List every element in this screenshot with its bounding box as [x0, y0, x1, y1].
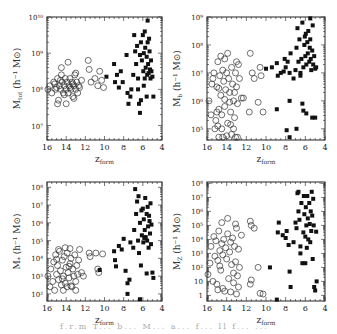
data-point-filled-square [145, 95, 149, 99]
data-point-filled-square [308, 37, 312, 41]
data-point-filled-square [143, 196, 147, 200]
data-point-filled-square [292, 77, 296, 81]
data-point-filled-square [126, 102, 130, 106]
data-point-open-circle [220, 134, 226, 140]
data-point-open-circle [79, 270, 85, 276]
data-point-filled-square [149, 58, 153, 62]
data-point-filled-square [149, 223, 153, 227]
data-point-filled-square [134, 212, 138, 216]
data-point-open-circle [231, 126, 237, 132]
data-point-filled-square [142, 84, 146, 88]
data-point-open-circle [260, 109, 266, 115]
data-point-filled-square [142, 217, 146, 221]
data-point-open-circle [233, 221, 239, 227]
data-point-filled-square [126, 281, 130, 285]
data-point-filled-square [135, 200, 139, 204]
data-point-open-circle [247, 50, 253, 56]
data-point-filled-square [309, 68, 313, 72]
data-point-filled-square [113, 80, 117, 84]
data-point-open-circle [208, 112, 214, 118]
data-point-filled-square [294, 68, 298, 72]
data-point-open-circle [97, 68, 103, 74]
data-point-filled-square [302, 194, 306, 198]
data-point-filled-square [313, 116, 317, 120]
data-point-filled-square [139, 98, 143, 102]
data-point-open-circle [86, 66, 92, 72]
data-point-open-circle [208, 243, 214, 249]
data-point-filled-square [141, 69, 145, 73]
y-tick-label: 10⁸ [191, 180, 203, 188]
data-point-filled-square [132, 228, 136, 232]
x-tick-label: 16 [42, 304, 52, 313]
data-point-open-circle [234, 291, 240, 297]
data-point-open-circle [217, 248, 223, 254]
data-point-open-circle [205, 271, 211, 277]
data-point-filled-square [289, 285, 293, 289]
data-point-filled-square [314, 65, 318, 69]
data-point-filled-square [294, 46, 298, 50]
y-tick-label: 10⁸ [31, 86, 43, 94]
data-point-open-circle [228, 289, 234, 295]
data-point-filled-square [131, 73, 135, 77]
data-point-filled-square [136, 239, 140, 243]
data-point-open-circle [255, 264, 261, 270]
data-point-open-circle [247, 218, 253, 224]
data-point-filled-square [294, 127, 298, 131]
data-point-filled-square [138, 53, 142, 57]
data-point-open-circle [214, 84, 220, 90]
data-point-filled-square [264, 67, 268, 71]
data-point-filled-square [117, 86, 121, 90]
data-point-open-circle [76, 257, 82, 263]
data-point-filled-square [141, 33, 145, 37]
data-point-open-circle [63, 101, 69, 107]
data-point-filled-square [282, 70, 286, 74]
data-point-filled-square [299, 201, 303, 205]
data-point-filled-square [137, 194, 141, 198]
data-point-filled-square [312, 54, 316, 58]
data-point-filled-square [270, 65, 274, 69]
data-point-open-circle [218, 267, 224, 273]
data-point-filled-square [121, 80, 125, 84]
x-tick-label: 14 [222, 304, 232, 313]
data-point-filled-square [137, 251, 141, 255]
panel-baryonic-mass: 1614121086410⁵10⁶10⁷10⁸10⁹zformMb (h⁻¹ M… [168, 0, 337, 167]
data-point-open-circle [222, 103, 228, 109]
data-point-filled-square [300, 21, 304, 25]
data-point-filled-square [146, 19, 150, 23]
x-tick-label: 6 [140, 304, 145, 313]
x-tick-label: 8 [283, 304, 288, 313]
data-point-filled-square [149, 69, 153, 73]
data-point-open-circle [73, 278, 79, 284]
data-point-filled-square [137, 102, 141, 106]
data-point-filled-square [133, 49, 137, 53]
data-point-filled-square [139, 208, 143, 212]
data-point-filled-square [144, 66, 148, 70]
data-point-open-circle [217, 263, 223, 269]
y-tick-label: 10⁸ [191, 42, 203, 50]
data-point-filled-square [147, 37, 151, 41]
data-point-filled-square [145, 271, 149, 275]
data-point-open-circle [59, 257, 65, 263]
data-point-filled-square [287, 243, 291, 247]
data-point-filled-square [315, 279, 319, 283]
data-point-filled-square [134, 62, 138, 66]
data-point-open-circle [212, 253, 218, 259]
y-tick-label: 10⁶ [31, 220, 43, 228]
x-tick-label: 14 [61, 143, 71, 152]
data-point-open-circle [233, 70, 239, 76]
panel-metal-mass: 1614121086411010²10³10⁴10⁵10⁶10⁷10⁸zform… [168, 165, 337, 325]
x-tick-label: 6 [303, 143, 308, 152]
data-point-open-circle [55, 101, 61, 107]
x-tick-label: 4 [322, 143, 327, 152]
data-point-filled-square [288, 135, 292, 139]
data-point-open-circle [248, 277, 254, 283]
y-tick-label: 10³ [31, 273, 43, 281]
data-point-open-circle [50, 278, 56, 284]
data-point-open-circle [58, 72, 64, 78]
data-point-open-circle [234, 225, 240, 231]
data-point-open-circle [87, 254, 93, 260]
y-tick-label: 10⁹ [191, 14, 203, 22]
data-point-filled-square [311, 257, 315, 261]
data-point-open-circle [228, 109, 234, 115]
data-point-filled-square [135, 44, 139, 48]
